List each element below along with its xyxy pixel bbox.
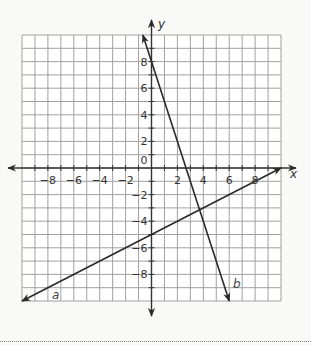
svg-text:−4: −4 [92,174,108,187]
svg-text:4: 4 [141,109,148,122]
svg-text:−8: −8 [131,268,147,281]
svg-text:−2: −2 [117,174,133,187]
svg-text:2: 2 [174,174,181,187]
svg-text:−6: −6 [66,174,82,187]
y-axis-label: y [157,17,166,31]
svg-text:−4: −4 [131,215,147,228]
svg-text:0: 0 [141,154,148,167]
line-b-label: b [233,277,241,291]
dotted-divider [0,341,311,342]
svg-text:6: 6 [226,174,233,187]
coordinate-plane: −8−6−4−224688642−2−4−6−80 x y a b [0,0,311,345]
x-axis-label: x [289,167,298,181]
svg-text:−2: −2 [131,189,147,202]
svg-text:6: 6 [141,82,148,95]
svg-text:8: 8 [141,56,148,69]
svg-text:−8: −8 [40,174,56,187]
svg-text:2: 2 [141,135,148,148]
line-a-label: a [52,288,59,302]
svg-text:4: 4 [200,174,207,187]
